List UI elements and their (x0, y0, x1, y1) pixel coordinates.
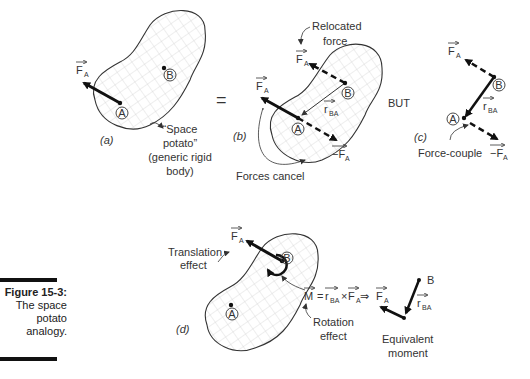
svg-text:B: B (495, 79, 502, 91)
svg-text:M: M (304, 290, 313, 302)
caption-line: analogy. (0, 325, 67, 338)
equals-sign: = (216, 90, 227, 110)
svg-text:r: r (483, 100, 487, 112)
svg-text:A: A (264, 87, 269, 94)
panel-d: B A F A Translation effect (d) M = r BA … (168, 228, 434, 359)
svg-text:A: A (503, 154, 508, 161)
svg-text:BA: BA (330, 297, 340, 304)
svg-text:F: F (448, 45, 455, 57)
forces-cancel-label: Forces cancel (236, 170, 304, 182)
svg-text:effect: effect (320, 330, 347, 342)
panel-label-c: (c) (414, 131, 427, 143)
panel-a: B A F A “Space potato” (generic rigid bo… (76, 11, 212, 177)
svg-text:moment: moment (388, 347, 428, 359)
svg-text:A: A (294, 123, 302, 135)
svg-text:A: A (228, 308, 236, 320)
potato-body (93, 11, 205, 129)
svg-text:−F: −F (332, 148, 345, 160)
svg-text:A: A (384, 297, 389, 304)
caption-title: Figure 15-3: (0, 286, 67, 299)
svg-text:F: F (256, 80, 263, 92)
panel-label-a: (a) (100, 134, 114, 146)
caption-line: potato (0, 312, 67, 325)
svg-text:effect: effect (180, 259, 207, 271)
force-label-fa: F A (256, 78, 269, 94)
svg-text:r: r (324, 103, 328, 115)
space-potato-figure: B A F A “Space potato” (generic rigid bo… (0, 0, 530, 379)
panel-b: B A Relocated force F A F A r BA −F A (233, 20, 382, 182)
svg-text:B: B (283, 252, 290, 264)
svg-text:=: = (317, 290, 323, 302)
svg-text:−F: −F (490, 147, 503, 159)
svg-text:F: F (296, 53, 303, 65)
but-label: BUT (388, 97, 410, 109)
svg-text:potato”: potato” (163, 137, 198, 149)
svg-text:B: B (344, 87, 351, 99)
force-label-fa: F A (231, 228, 244, 244)
svg-text:Rotation: Rotation (313, 316, 354, 328)
force-label-fa: F A (76, 62, 89, 78)
panel-label-d: (d) (176, 323, 190, 335)
figure-caption: Figure 15-3: The space potato analogy. (0, 286, 67, 338)
svg-text:F: F (376, 290, 383, 302)
svg-text:B: B (427, 274, 434, 286)
svg-text:B: B (166, 69, 173, 81)
svg-text:A: A (304, 60, 309, 67)
svg-text:Equivalent: Equivalent (382, 333, 433, 345)
equivalent-moment-diagram: B r BA Equivalent moment (381, 274, 434, 359)
svg-text:F: F (76, 64, 83, 76)
svg-text:“Space: “Space (163, 123, 198, 135)
svg-text:A: A (239, 237, 244, 244)
svg-text:A: A (345, 155, 350, 162)
caption-line: The space (0, 299, 67, 312)
svg-text:BA: BA (488, 107, 498, 114)
svg-text:A: A (118, 107, 126, 119)
svg-text:F: F (231, 230, 238, 242)
relocated-force-label: F A (296, 51, 309, 67)
panel-c: B A F A r BA −F A Force-couple (c) (414, 43, 508, 161)
point-a-marker: A (447, 113, 459, 125)
potato-body (205, 234, 318, 351)
moment-equation: M = r BA × F A ⇒ F A (304, 288, 389, 304)
force-couple-label: Force-couple (418, 147, 482, 159)
svg-text:BA: BA (422, 304, 432, 311)
svg-text:×: × (341, 290, 347, 302)
caption-rule-top (0, 278, 57, 282)
svg-text:BA: BA (329, 110, 339, 117)
neg-force-label: −F A (332, 146, 350, 162)
svg-text:A: A (456, 52, 461, 59)
svg-text:(generic rigid: (generic rigid (148, 151, 212, 163)
svg-text:F: F (348, 290, 355, 302)
r-ba-label: r BA (483, 98, 498, 114)
neg-force-label: −F A (490, 145, 508, 161)
svg-text:Relocated: Relocated (312, 20, 362, 32)
svg-text:body): body) (166, 165, 194, 177)
panel-label-b: (b) (233, 130, 247, 142)
svg-text:A: A (84, 71, 89, 78)
svg-text:r: r (417, 297, 421, 309)
svg-text:force: force (323, 35, 347, 47)
caption-rule-bottom (0, 357, 57, 361)
svg-text:⇒: ⇒ (360, 290, 369, 302)
svg-text:Translation: Translation (168, 246, 222, 258)
svg-text:r: r (325, 290, 329, 302)
svg-text:A: A (449, 113, 457, 125)
point-b-marker: B (493, 79, 505, 91)
force-label-fa: F A (448, 43, 461, 59)
